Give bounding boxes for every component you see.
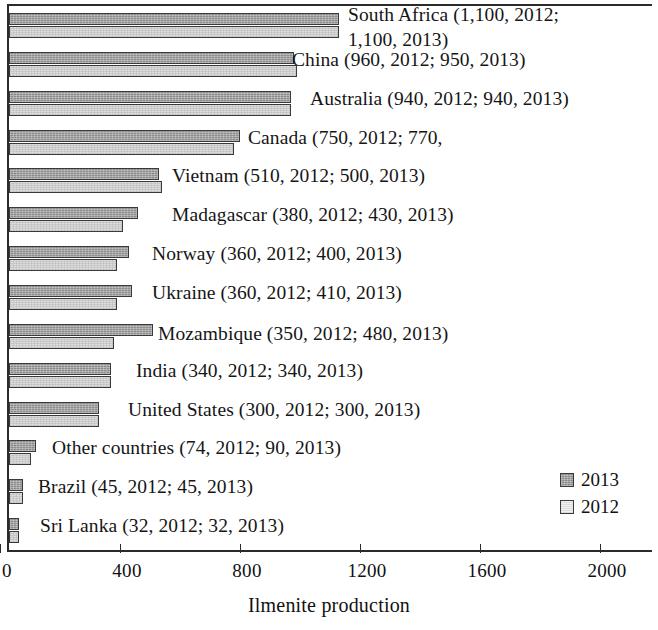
y-axis-line [7,4,9,552]
category-label: Norway (360, 2012; 400, 2013) [152,241,402,266]
category-label: United States (300, 2012; 300, 2013) [128,397,420,422]
category-label: Other countries (74, 2012; 90, 2013) [52,435,341,460]
legend-label-2012: 2012 [581,493,619,520]
bar-2013[interactable] [9,130,240,142]
bar-2013[interactable] [9,402,99,414]
bar-2013[interactable] [9,13,339,25]
chart-legend: 2013 2012 [560,466,619,520]
legend-swatch-2012-icon [560,500,574,514]
category-label: Canada (750, 2012; 770, [248,125,443,150]
category-label: Australia (940, 2012; 940, 2013) [310,86,569,111]
category-label: India (340, 2012; 340, 2013) [136,358,363,383]
category-label: Brazil (45, 2012; 45, 2013) [38,474,253,499]
bar-2013[interactable] [9,91,291,103]
bar-2012[interactable] [9,104,291,116]
ilmenite-production-chart: South Africa (1,100, 2012; 1,100, 2013)C… [0,0,658,630]
bar-2012[interactable] [9,492,23,504]
x-tick-label-1600: 1600 [467,560,506,582]
category-label: Sri Lanka (32, 2012; 32, 2013) [40,513,284,538]
x-tick-label-1200: 1200 [347,560,386,582]
bar-2013[interactable] [9,285,132,297]
x-tick-label-2000: 2000 [587,560,626,582]
bar-2012[interactable] [9,531,19,543]
x-tick-1200 [360,544,361,553]
x-tick-label-0: 0 [2,560,12,582]
bar-2012[interactable] [9,259,117,271]
bar-2012[interactable] [9,181,162,193]
bar-2013[interactable] [9,440,36,452]
category-label: Mozambique (350, 2012; 480, 2013) [158,321,448,346]
legend-item-2012[interactable]: 2012 [560,493,619,520]
legend-label-2013: 2013 [581,466,619,493]
bar-2012[interactable] [9,65,297,77]
bar-2013[interactable] [9,246,129,258]
x-tick-1600 [480,544,481,553]
legend-item-2013[interactable]: 2013 [560,466,619,493]
x-tick-0 [0,544,1,553]
bar-2012[interactable] [9,298,117,310]
bar-2013[interactable] [9,479,23,491]
x-tick-label-400: 400 [112,560,141,582]
bar-2013[interactable] [9,363,111,375]
bar-2012[interactable] [9,337,114,349]
category-label: Vietnam (510, 2012; 500, 2013) [172,163,425,188]
bar-2012[interactable] [9,220,123,232]
category-label: China (960, 2012; 950, 2013) [292,47,526,72]
bar-2013[interactable] [9,324,153,336]
category-label: Ukraine (360, 2012; 410, 2013) [152,280,402,305]
x-tick-400 [120,544,121,553]
x-tick-800 [240,544,241,553]
bar-2012[interactable] [9,415,99,427]
bar-2012[interactable] [9,26,339,38]
bar-2013[interactable] [9,207,138,219]
bar-2013[interactable] [9,168,159,180]
category-label: South Africa (1,100, 2012; 1,100, 2013) [348,2,559,52]
x-tick-label-800: 800 [232,560,261,582]
bar-2013[interactable] [9,52,294,64]
bar-2012[interactable] [9,453,31,465]
bar-2012[interactable] [9,143,234,155]
x-axis-title: Ilmenite production [0,594,658,617]
legend-swatch-2013-icon [560,473,574,487]
bar-2012[interactable] [9,376,111,388]
category-label: Madagascar (380, 2012; 430, 2013) [172,202,454,227]
x-axis-line [7,550,652,552]
x-tick-2000 [600,544,601,553]
bar-2013[interactable] [9,518,19,530]
